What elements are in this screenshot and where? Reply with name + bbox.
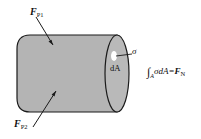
integrand: σdA= [154,66,175,76]
stress-label: σ [132,47,136,56]
force-p2-subscript: P2 [21,123,28,130]
force-p2-label: FP2 [14,119,28,131]
normal-force-subscript: N [181,70,186,77]
force-p1-subscript: P1 [37,11,44,18]
equilibrium-equation: ∫AσdA=FN [147,64,185,78]
force-p1-symbol: F [30,6,37,17]
force-p2-symbol: F [14,118,21,129]
integral-lower-limit: A [150,73,154,79]
area-element-text: dA [110,63,120,73]
force-p1-label: FP1 [30,7,44,19]
area-element-label: dA [110,64,120,73]
cylinder-body [17,35,117,112]
cross-section-face [105,35,129,112]
